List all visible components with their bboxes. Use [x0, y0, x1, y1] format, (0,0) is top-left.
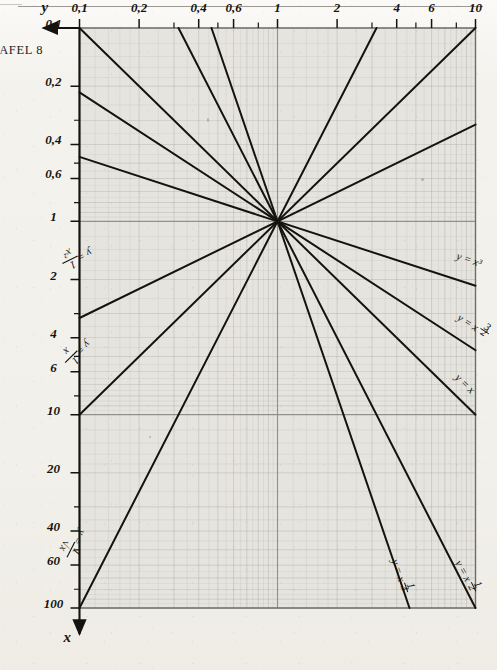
- x-tick-label: 1: [50, 209, 57, 224]
- x-tick-label: 100: [43, 596, 63, 611]
- scan-speck: [421, 178, 424, 181]
- x-tick-label: 6: [50, 360, 57, 375]
- y-tick-label: 0,4: [190, 0, 207, 15]
- y-axis-tick-labels: 1064210,60,40,20,1: [71, 0, 482, 15]
- x-tick-label: 0,6: [45, 166, 62, 181]
- scan-speck: [149, 436, 151, 438]
- x-tick-label: 40: [46, 519, 61, 534]
- scan-speck: [207, 118, 209, 122]
- y-axis-name: y: [39, 0, 48, 15]
- x-tick-label: 0,2: [45, 74, 62, 89]
- y-tick-label: 0,2: [130, 0, 147, 15]
- x-tick-label: 0,4: [45, 132, 62, 147]
- x-axis-tick-labels: 0,10,20,40,6124610204060100: [43, 16, 63, 611]
- scanned-page: 0,10,20,40,6124610204060100 1064210,60,4…: [0, 0, 497, 670]
- x-tick-label: 60: [47, 553, 61, 568]
- y-tick-label: 6: [428, 0, 435, 15]
- x-tick-label: 0,1: [45, 16, 61, 31]
- x-tick-label: 20: [46, 461, 61, 476]
- y-tick-label: 10: [469, 0, 483, 15]
- svg-text:x²: x²: [60, 246, 74, 261]
- x-axis-ticks: [70, 28, 79, 608]
- plot-plate: 0,10,20,40,6124610204060100 1064210,60,4…: [0, 0, 497, 670]
- y-tick-label: 2: [332, 0, 340, 15]
- x-tick-label: 10: [47, 403, 61, 418]
- plate-caption: TAFEL 8: [0, 43, 43, 57]
- svg-text:x: x: [61, 345, 74, 358]
- y-tick-label: 0,6: [225, 0, 242, 15]
- loglog-chart: 0,10,20,40,6124610204060100 1064210,60,4…: [0, 0, 497, 670]
- svg-text:2: 2: [478, 325, 490, 338]
- y-tick-label: 4: [392, 0, 400, 15]
- svg-text:1: 1: [68, 259, 78, 272]
- svg-text:√x: √x: [57, 539, 73, 554]
- y-tick-label: 0,1: [71, 0, 87, 15]
- x-tick-label: 2: [49, 268, 57, 283]
- y-tick-label: 1: [274, 0, 281, 15]
- x-axis-name: x: [62, 629, 71, 645]
- x-tick-label: 4: [49, 326, 57, 341]
- y-axis-ticks: [79, 19, 475, 28]
